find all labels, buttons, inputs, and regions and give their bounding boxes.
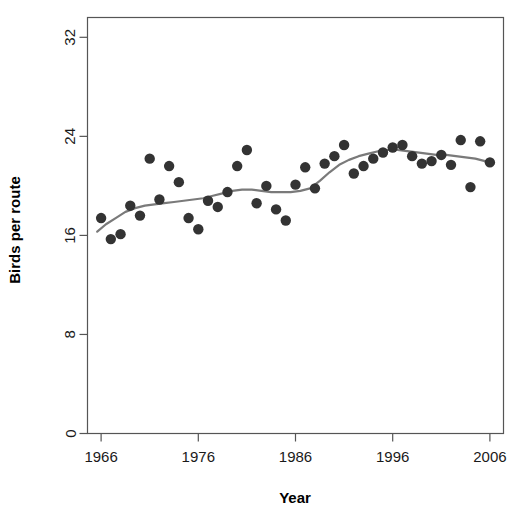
data-point [319, 158, 329, 168]
data-point [193, 224, 203, 234]
data-point [475, 136, 485, 146]
data-point [456, 135, 466, 145]
data-point [164, 161, 174, 171]
data-point [290, 179, 300, 189]
data-point [378, 147, 388, 157]
data-point [446, 160, 456, 170]
y-tick-label: 24 [62, 128, 79, 145]
data-point [417, 158, 427, 168]
y-tick-label: 32 [62, 29, 79, 46]
chart-figure: 08162432 19661976198619962006 Year Birds… [0, 0, 521, 511]
data-point [145, 153, 155, 163]
data-point [368, 153, 378, 163]
data-point [251, 198, 261, 208]
data-point [388, 142, 398, 152]
scatter-plot: 08162432 19661976198619962006 Year Birds… [0, 0, 521, 511]
data-point [465, 182, 475, 192]
data-point [96, 213, 106, 223]
x-tick-label: 1986 [279, 448, 312, 465]
data-point [222, 187, 232, 197]
data-point [300, 162, 310, 172]
x-tick-label: 1966 [84, 448, 117, 465]
data-point [154, 194, 164, 204]
data-point [135, 210, 145, 220]
y-tick-label: 8 [62, 330, 79, 338]
data-point [329, 151, 339, 161]
data-point [183, 213, 193, 223]
data-point [310, 183, 320, 193]
data-point [242, 145, 252, 155]
data-point [232, 161, 242, 171]
y-tick-label: 0 [62, 429, 79, 437]
x-tick-label: 1996 [376, 448, 409, 465]
data-point [203, 196, 213, 206]
data-point [106, 234, 116, 244]
data-point [358, 161, 368, 171]
data-point [426, 156, 436, 166]
data-point [271, 204, 281, 214]
data-point [281, 215, 291, 225]
data-point [174, 177, 184, 187]
data-point [349, 168, 359, 178]
x-tick-label: 1976 [182, 448, 215, 465]
x-tick-label: 2006 [473, 448, 506, 465]
y-axis-title: Birds per route [6, 176, 23, 284]
data-point [407, 151, 417, 161]
data-point [261, 181, 271, 191]
y-tick-label: 16 [62, 227, 79, 244]
data-point [485, 157, 495, 167]
data-point [339, 140, 349, 150]
data-point [213, 202, 223, 212]
x-axis-title: Year [279, 489, 311, 506]
data-point [397, 140, 407, 150]
data-point [436, 150, 446, 160]
data-point [115, 229, 125, 239]
data-point [125, 200, 135, 210]
